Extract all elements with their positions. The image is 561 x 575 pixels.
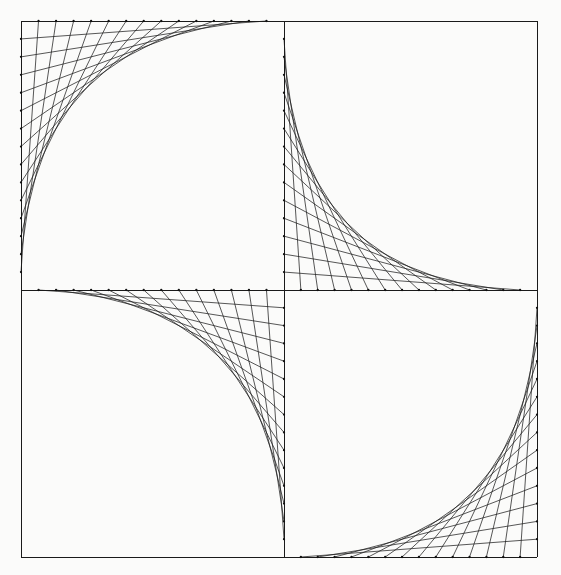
node-dot-bottom-left-b10 xyxy=(283,467,285,469)
node-dot-bottom-right-b10 xyxy=(536,378,538,380)
node-dot-bottom-left-b12 xyxy=(283,502,285,504)
node-dot-top-right-a7 xyxy=(283,163,285,165)
node-dot-bottom-right-a14 xyxy=(300,556,302,558)
node-dot-top-right-b14 xyxy=(519,289,521,291)
node-dot-top-left-a2 xyxy=(55,20,57,22)
node-dot-bottom-left-a3 xyxy=(230,289,232,291)
node-dot-top-left-a4 xyxy=(90,20,92,22)
node-dot-top-left-a7 xyxy=(143,20,145,22)
node-dot-bottom-left-a8 xyxy=(143,289,145,291)
node-dot-top-right-a11 xyxy=(283,92,285,94)
node-dot-top-right-a10 xyxy=(283,110,285,112)
node-dot-bottom-left-a4 xyxy=(213,289,215,291)
node-dot-bottom-left-a5 xyxy=(195,289,197,291)
node-dot-bottom-left-a14 xyxy=(37,289,39,291)
node-dot-bottom-left-b8 xyxy=(283,431,285,433)
node-dot-bottom-right-a11 xyxy=(350,556,352,558)
node-dot-bottom-right-a13 xyxy=(317,556,319,558)
string-art-figure xyxy=(0,0,561,575)
node-dot-bottom-right-b2 xyxy=(536,520,538,522)
node-dot-bottom-right-a9 xyxy=(384,556,386,558)
node-dot-top-left-a13 xyxy=(248,20,250,22)
node-dot-top-left-b2 xyxy=(20,56,22,58)
node-dot-top-left-a1 xyxy=(37,20,39,22)
node-dot-bottom-right-b9 xyxy=(536,396,538,398)
node-dot-top-right-b9 xyxy=(435,289,437,291)
node-dot-bottom-right-b6 xyxy=(536,449,538,451)
node-dot-bottom-right-a8 xyxy=(401,556,403,558)
node-dot-top-left-a12 xyxy=(230,20,232,22)
string-art-canvas xyxy=(0,0,561,575)
node-dot-bottom-left-b7 xyxy=(283,413,285,415)
node-dot-top-left-a14 xyxy=(265,20,267,22)
node-dot-bottom-right-a6 xyxy=(435,556,437,558)
node-dot-top-right-a6 xyxy=(283,181,285,183)
node-dot-top-left-b4 xyxy=(20,92,22,94)
node-dot-top-left-b1 xyxy=(20,38,22,40)
node-dot-top-left-a5 xyxy=(108,20,110,22)
node-dot-bottom-right-a12 xyxy=(333,556,335,558)
node-dot-bottom-right-b5 xyxy=(536,467,538,469)
node-dot-bottom-right-b8 xyxy=(536,413,538,415)
node-dot-bottom-left-b3 xyxy=(283,342,285,344)
node-dot-bottom-right-a2 xyxy=(502,556,504,558)
node-dot-bottom-right-a4 xyxy=(468,556,470,558)
node-dot-bottom-right-b4 xyxy=(536,485,538,487)
node-dot-bottom-left-b6 xyxy=(283,396,285,398)
node-dot-bottom-left-a13 xyxy=(55,289,57,291)
node-dot-bottom-right-a3 xyxy=(485,556,487,558)
node-dot-top-right-a1 xyxy=(283,271,285,273)
node-dot-top-left-a6 xyxy=(125,20,127,22)
node-dot-bottom-right-b3 xyxy=(536,502,538,504)
node-dot-top-left-a9 xyxy=(178,20,180,22)
node-dot-top-right-a9 xyxy=(283,127,285,129)
node-dot-bottom-left-a2 xyxy=(248,289,250,291)
node-dot-top-left-a10 xyxy=(195,20,197,22)
node-dot-bottom-right-a10 xyxy=(367,556,369,558)
node-dot-top-left-b13 xyxy=(20,253,22,255)
node-dot-top-right-b4 xyxy=(350,289,352,291)
node-dot-top-right-a8 xyxy=(283,145,285,147)
node-dot-top-right-b2 xyxy=(317,289,319,291)
node-dot-top-left-a8 xyxy=(160,20,162,22)
node-dot-bottom-left-a9 xyxy=(125,289,127,291)
node-dot-top-left-a3 xyxy=(72,20,74,22)
node-dot-bottom-left-b9 xyxy=(283,449,285,451)
node-dot-bottom-right-a5 xyxy=(452,556,454,558)
node-dot-top-left-b9 xyxy=(20,181,22,183)
node-dot-top-right-b13 xyxy=(502,289,504,291)
node-dot-bottom-left-b1 xyxy=(283,307,285,309)
node-dot-bottom-right-b13 xyxy=(536,324,538,326)
node-dot-bottom-left-a12 xyxy=(72,289,74,291)
node-dot-top-right-b6 xyxy=(384,289,386,291)
node-dot-bottom-left-b13 xyxy=(283,520,285,522)
node-dot-bottom-right-a7 xyxy=(418,556,420,558)
node-dot-bottom-left-b11 xyxy=(283,485,285,487)
node-dot-top-right-b3 xyxy=(333,289,335,291)
node-dot-top-right-a4 xyxy=(283,217,285,219)
node-dot-top-left-b5 xyxy=(20,110,22,112)
node-dot-bottom-left-a10 xyxy=(108,289,110,291)
node-dot-bottom-right-b7 xyxy=(536,431,538,433)
node-dot-top-right-a13 xyxy=(283,56,285,58)
node-dot-bottom-right-b11 xyxy=(536,360,538,362)
node-dot-bottom-right-b12 xyxy=(536,342,538,344)
node-dot-top-right-a14 xyxy=(283,38,285,40)
node-dot-top-right-b10 xyxy=(452,289,454,291)
node-dot-bottom-left-a11 xyxy=(90,289,92,291)
node-dot-top-left-b11 xyxy=(20,217,22,219)
node-dot-top-right-a12 xyxy=(283,74,285,76)
node-dot-top-right-a5 xyxy=(283,199,285,201)
node-dot-top-right-b7 xyxy=(401,289,403,291)
node-dot-bottom-left-b2 xyxy=(283,324,285,326)
node-dot-bottom-left-a7 xyxy=(160,289,162,291)
node-dot-bottom-left-b4 xyxy=(283,360,285,362)
node-dot-bottom-left-a6 xyxy=(178,289,180,291)
node-dot-top-left-b8 xyxy=(20,163,22,165)
node-dot-bottom-right-b14 xyxy=(536,307,538,309)
node-dot-bottom-left-a1 xyxy=(265,289,267,291)
node-dot-top-right-a3 xyxy=(283,235,285,237)
node-dot-top-right-b5 xyxy=(367,289,369,291)
node-dot-top-left-b12 xyxy=(20,235,22,237)
node-dot-top-left-b3 xyxy=(20,74,22,76)
